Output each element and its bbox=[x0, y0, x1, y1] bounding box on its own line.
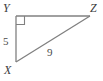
vertex-label-y: Y bbox=[3, 2, 10, 14]
right-triangle-graphic bbox=[0, 0, 103, 81]
vertex-label-x: X bbox=[4, 64, 11, 76]
vertex-label-z: Z bbox=[90, 2, 97, 14]
geometry-figure: Y Z X 5 9 bbox=[0, 0, 103, 81]
side-length-label-yx: 5 bbox=[3, 36, 9, 47]
side-xz-hypotenuse-line bbox=[16, 16, 90, 62]
side-length-label-xz: 9 bbox=[47, 47, 53, 58]
right-angle-marker-icon bbox=[16, 16, 25, 25]
